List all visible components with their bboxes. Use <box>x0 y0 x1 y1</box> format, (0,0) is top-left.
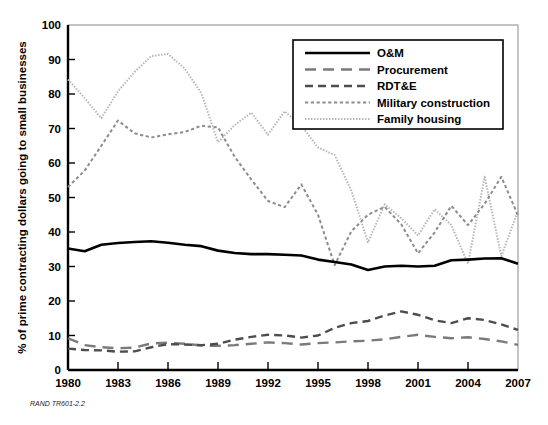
legend-label-military-construction: Military construction <box>377 97 490 109</box>
y-axis-tick-label: 30 <box>48 261 61 273</box>
legend-label-procurement: Procurement <box>377 64 448 76</box>
y-axis-tick-label: 90 <box>48 54 61 66</box>
series-line-rdt-e <box>68 311 518 351</box>
x-axis-tick-label: 2007 <box>505 377 531 389</box>
y-axis-tick-label: 100 <box>42 19 61 31</box>
x-axis-tick-label: 1992 <box>255 377 281 389</box>
x-axis-tick-label: 1980 <box>55 377 81 389</box>
y-axis-title: % of prime contracting dollars going to … <box>16 41 28 353</box>
y-axis-tick-label: 60 <box>48 157 61 169</box>
x-axis-tick-label: 1983 <box>105 377 131 389</box>
y-axis-tick-label: 10 <box>48 330 61 342</box>
x-axis-tick-label: 1995 <box>305 377 331 389</box>
series-line-military-construction <box>68 121 518 266</box>
y-axis-tick-label: 20 <box>48 295 61 307</box>
x-axis-tick-label: 1998 <box>355 377 381 389</box>
y-axis-tick-label: 50 <box>48 192 61 204</box>
line-chart: O&MProcurementRDT&EMilitary construction… <box>0 0 548 425</box>
series-line-o-m <box>68 241 518 270</box>
x-axis-tick-label: 1989 <box>205 377 231 389</box>
y-axis-tick-label: 80 <box>48 88 61 100</box>
legend-label-rdt-e: RDT&E <box>377 80 417 92</box>
y-axis-tick-label: 70 <box>48 123 61 135</box>
x-axis-tick-label: 2001 <box>405 377 431 389</box>
legend-label-o-m: O&M <box>377 47 404 59</box>
x-axis-tick-label: 1986 <box>155 377 181 389</box>
chart-figure: O&MProcurementRDT&EMilitary construction… <box>0 0 548 425</box>
chart-legend: O&MProcurementRDT&EMilitary construction… <box>293 40 503 129</box>
y-axis-tick-label: 0 <box>55 364 61 376</box>
x-axis-tick-label: 2004 <box>455 377 481 389</box>
legend-label-family-housing: Family housing <box>377 113 461 125</box>
y-axis-tick-label: 40 <box>48 226 61 238</box>
figure-source-note: RAND TR601-2.2 <box>30 400 85 407</box>
